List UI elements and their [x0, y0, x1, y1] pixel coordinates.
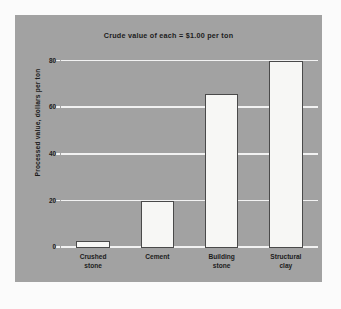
x-axis-label-line: Building — [208, 252, 234, 261]
bar-group: Buildingstone — [190, 52, 254, 248]
bar-group: Cement — [125, 52, 189, 248]
y-tick-mark-20 — [56, 200, 60, 202]
y-tick-mark-80 — [56, 60, 60, 62]
chart-panel: Crude value of each = $1.00 per ton Proc… — [15, 15, 322, 282]
bar[interactable] — [76, 241, 109, 248]
y-tick-label-80: 80 — [49, 56, 56, 63]
x-axis-label: Cement — [145, 252, 169, 261]
x-axis-label-line: Crushed — [80, 252, 107, 261]
bar-series: CrushedstoneCementBuildingstoneStructura… — [61, 52, 318, 248]
chart-page: Crude value of each = $1.00 per ton Proc… — [0, 0, 341, 309]
x-axis-label-line: clay — [270, 261, 301, 270]
bar[interactable] — [205, 94, 238, 248]
y-tick-label-60: 60 — [49, 103, 56, 110]
x-axis-label: Buildingstone — [208, 252, 234, 270]
y-tick-label-0: 0 — [52, 243, 56, 250]
bar-group: Crushedstone — [61, 52, 125, 248]
y-tick-label-40: 40 — [49, 150, 56, 157]
y-tick-mark-0 — [56, 246, 60, 248]
y-tick-mark-40 — [56, 153, 60, 155]
x-axis-label-line: Cement — [145, 252, 169, 261]
x-axis-label-line: stone — [208, 261, 234, 270]
bar[interactable] — [141, 201, 174, 248]
plot-area: 020406080 CrushedstoneCementBuildingston… — [61, 52, 318, 248]
chart-title: Crude value of each = $1.00 per ton — [15, 31, 322, 40]
bar[interactable] — [269, 61, 302, 248]
y-axis-title: Processed value, dollars per ton — [34, 53, 41, 193]
x-axis-label-line: Structural — [270, 252, 301, 261]
y-tick-label-20: 20 — [49, 196, 56, 203]
y-tick-mark-60 — [56, 106, 60, 108]
x-axis-label: Crushedstone — [80, 252, 107, 270]
bar-group: Structuralclay — [254, 52, 318, 248]
x-axis-label: Structuralclay — [270, 252, 301, 270]
x-axis-label-line: stone — [80, 261, 107, 270]
